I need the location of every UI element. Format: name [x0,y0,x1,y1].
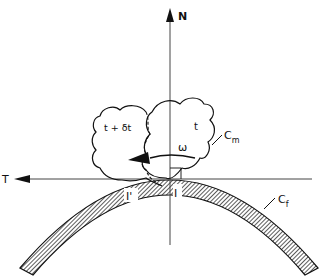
moving-body-hidden-contour [142,112,156,182]
tangent-axis-label: T [1,173,9,186]
normal-axis-label: N [178,10,187,23]
normal-arrow-icon [166,8,174,22]
next-contact-point-label: I' [126,190,132,203]
next-time-label: t + δt [104,122,132,133]
moving-body-at-t-plus-dt [92,106,162,186]
rotation-arrow-icon [128,152,150,164]
rotation-arc [150,155,195,158]
fixed-body-label: Cf [278,193,289,209]
fixed-body-surface [20,180,318,275]
rotation-label: ω [178,141,187,154]
contact-point-label: I [174,187,177,200]
contact-diagram: N T ω t + δt t Cm Cf I' I [0,0,327,279]
moving-body-label: Cm [224,129,240,145]
tangent-arrow-icon [14,175,30,183]
fixed-body-leader [264,198,275,209]
moving-body-at-t [142,98,214,179]
current-time-label: t [194,121,198,132]
